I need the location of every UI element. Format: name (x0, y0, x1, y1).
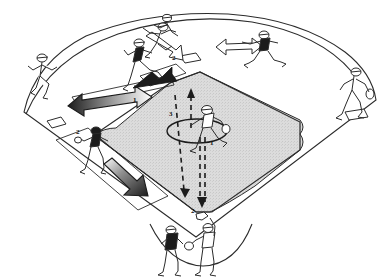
sequence-label-2-third: 2 (76, 128, 80, 136)
field-illustration: 1 2 2 2 3 1 (0, 0, 391, 277)
player-batter (158, 226, 183, 276)
sequence-label-2-home: 2 (191, 207, 195, 215)
sequence-label-3-center: 3 (169, 110, 173, 118)
sequence-label-1-left: 1 (133, 96, 137, 104)
sequence-label-2-second: 2 (172, 54, 176, 62)
sequence-label-1-mound: 1 (210, 139, 214, 147)
baseball-field-diagram: 1 2 2 2 3 1 (0, 0, 391, 277)
